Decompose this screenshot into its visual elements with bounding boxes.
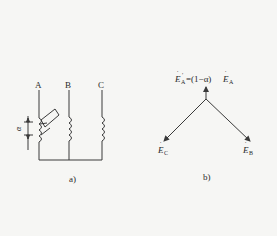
svg-text:·: · [225, 68, 227, 76]
diagram-canvas: A B C α a) E · A ′ =(1−α) E · A E · C E … [0, 0, 277, 236]
phasor-diagram [164, 87, 250, 141]
svg-text:C: C [164, 150, 168, 156]
svg-text:·: · [177, 68, 179, 76]
phasor-ec [164, 99, 206, 141]
phase-b-label: B [65, 80, 71, 90]
phase-a-label: A [35, 80, 42, 90]
tap-changer [41, 109, 59, 127]
svg-text:=(1−α): =(1−α) [186, 74, 211, 84]
svg-text:·: · [160, 139, 162, 147]
caption-b: b) [203, 172, 211, 182]
svg-text:′: ′ [182, 72, 184, 78]
alpha-label: α [14, 126, 23, 131]
phase-a-winding [39, 118, 42, 142]
phase-c-label: C [98, 80, 104, 90]
svg-text:B: B [249, 150, 253, 156]
svg-text:A: A [229, 79, 234, 85]
phase-c-winding [102, 117, 105, 141]
phasor-ea-prime-label: E · A ′ =(1−α) E · A [174, 68, 234, 85]
circuit-diagram [24, 90, 105, 160]
svg-text:·: · [245, 139, 247, 147]
phasor-eb-label: E · B [242, 139, 253, 156]
phasor-eb [206, 99, 250, 141]
caption-a: a) [69, 174, 76, 184]
tap-arrow-upper [40, 123, 47, 124]
phasor-ec-label: E · C [157, 139, 168, 156]
tap-arrow-lower [41, 128, 50, 135]
phase-b-winding [69, 117, 72, 141]
